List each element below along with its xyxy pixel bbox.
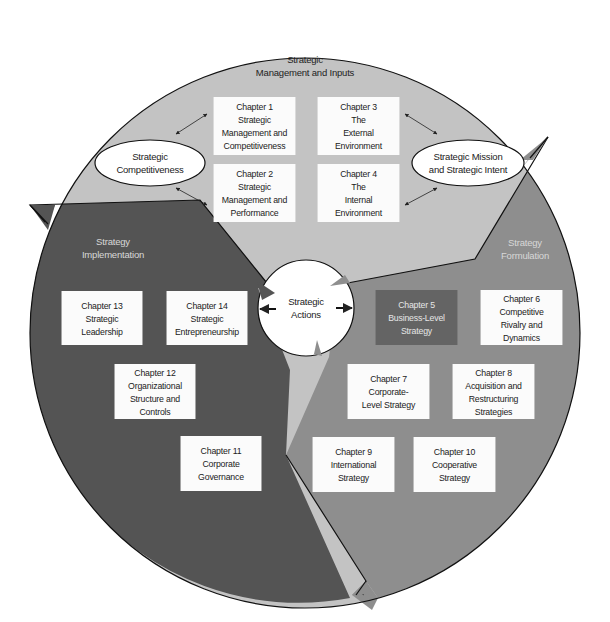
chapter-11-box: Chapter 11 Corporate Governance: [181, 436, 262, 491]
chapter-line: The: [351, 113, 366, 126]
chapter-line: Corporate: [202, 457, 239, 470]
chapter-line: Chapter 7: [370, 372, 407, 385]
strategic-competitiveness-label: Strategic Competitiveness: [95, 141, 205, 185]
chapter-line: Strategy: [338, 471, 369, 484]
chapter-line: Chapter 12: [134, 366, 175, 379]
implementation-segment-title: Strategy Implementation: [68, 235, 158, 261]
chapter-line: Business-Level: [388, 311, 445, 324]
chapter-line: International: [331, 458, 377, 471]
chapter-3-box: Chapter 3 The External Environment: [318, 97, 400, 155]
chapter-line: Strategy: [439, 471, 470, 484]
strategic-actions-label: Strategic Actions: [276, 286, 336, 330]
formulation-segment-title: Strategy Formulation: [485, 236, 565, 262]
oval-line: Strategic: [132, 150, 168, 163]
chapter-line: External: [343, 126, 374, 139]
chapter-line: Environment: [335, 206, 382, 219]
chapter-6-box: Chapter 6 Competitive Rivalry and Dynami…: [481, 290, 563, 345]
chapter-line: Rivalry and: [501, 318, 543, 331]
chapter-line: Management and: [222, 193, 287, 206]
chapter-line: Chapter 6: [503, 292, 540, 305]
chapter-line: Competitive: [499, 305, 543, 318]
chapter-10-box: Chapter 10 Cooperative Strategy: [414, 437, 496, 492]
chapter-line: Governance: [198, 470, 244, 483]
chapter-line: Internal: [345, 193, 373, 206]
chapter-line: Dynamics: [503, 331, 540, 344]
chapter-line: Cooperative: [432, 458, 477, 471]
chapter-line: Chapter 11: [201, 444, 242, 457]
chapter-line: The: [351, 180, 366, 193]
chapter-line: Strategic: [86, 312, 119, 325]
chapter-line: Management and: [222, 126, 287, 139]
chapter-12-box: Chapter 12 Organizational Structure and …: [115, 364, 196, 419]
chapter-line: Organizational: [128, 379, 182, 392]
chapter-line: Chapter 5: [398, 298, 435, 311]
strategic-mission-label: Strategic Mission and Strategic Intent: [412, 141, 524, 185]
chapter-line: Chapter 10: [434, 445, 475, 458]
chapter-line: Chapter 9: [335, 445, 372, 458]
chapter-line: Corporate-: [369, 385, 409, 398]
oval-line: Competitiveness: [116, 163, 183, 176]
chapter-line: Strategic: [238, 113, 271, 126]
title-line: Implementation: [68, 248, 158, 261]
chapter-5-box: Chapter 5 Business-Level Strategy: [376, 290, 458, 345]
title-line: Management and Inputs: [240, 66, 370, 79]
chapter-line: Competitiveness: [224, 139, 286, 152]
oval-line: and Strategic Intent: [429, 163, 507, 176]
chapter-14-box: Chapter 14 Strategic Entrepreneurship: [167, 291, 248, 345]
chapter-4-box: Chapter 4 The Internal Environment: [318, 164, 400, 222]
title-line: Strategic: [240, 53, 370, 66]
chapter-line: Chapter 13: [81, 299, 122, 312]
chapter-line: Controls: [139, 405, 170, 418]
chapter-line: Strategy: [401, 324, 432, 337]
chapter-line: Level Strategy: [362, 398, 415, 411]
chapter-line: Leadership: [81, 325, 122, 338]
title-line: Strategy: [485, 236, 565, 249]
inputs-segment-title: Strategic Management and Inputs: [240, 53, 370, 79]
chapter-7-box: Chapter 7 Corporate- Level Strategy: [348, 364, 430, 419]
chapter-line: Chapter 3: [340, 100, 377, 113]
chapter-line: Chapter 1: [236, 100, 273, 113]
chapter-line: Environment: [335, 139, 382, 152]
center-line: Actions: [291, 308, 321, 321]
chapter-line: Strategies: [475, 405, 513, 418]
chapter-line: Entrepreneurship: [175, 325, 239, 338]
chapter-line: Chapter 2: [236, 167, 273, 180]
chapter-line: Acquisition and: [465, 379, 522, 392]
chapter-9-box: Chapter 9 International Strategy: [313, 437, 395, 492]
chapter-line: Structure and: [130, 392, 180, 405]
chapter-line: Strategic: [191, 312, 224, 325]
chapter-line: Restructuring: [469, 392, 519, 405]
chapter-line: Chapter 4: [340, 167, 377, 180]
chapter-2-box: Chapter 2 Strategic Management and Perfo…: [214, 164, 296, 222]
title-line: Formulation: [485, 249, 565, 262]
chapter-13-box: Chapter 13 Strategic Leadership: [62, 291, 143, 345]
title-line: Strategy: [68, 235, 158, 248]
chapter-1-box: Chapter 1 Strategic Management and Compe…: [214, 97, 296, 155]
chapter-line: Strategic: [238, 180, 271, 193]
chapter-line: Performance: [230, 206, 278, 219]
chapter-line: Chapter 14: [186, 299, 227, 312]
chapter-8-box: Chapter 8 Acquisition and Restructuring …: [453, 364, 535, 419]
center-line: Strategic: [288, 295, 324, 308]
chapter-line: Chapter 8: [475, 366, 512, 379]
oval-line: Strategic Mission: [434, 150, 503, 163]
